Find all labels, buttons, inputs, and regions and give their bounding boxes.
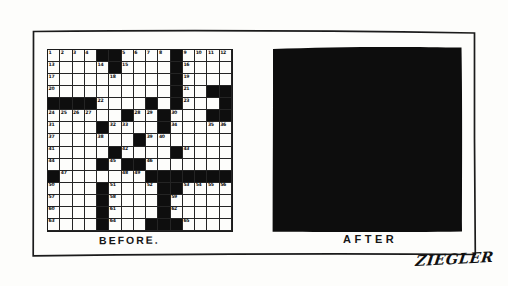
grid-cell: 8: [158, 50, 170, 62]
grid-cell: [146, 62, 158, 74]
grid-cell: [207, 98, 219, 110]
grid-cell: [220, 62, 232, 74]
grid-cell: [122, 195, 134, 207]
grid-cell: 26: [73, 110, 85, 122]
grid-cell: [183, 122, 195, 134]
grid-cell: [195, 207, 207, 219]
grid-cell: [122, 219, 134, 231]
grid-cell: [73, 62, 85, 74]
grid-cell: [195, 159, 207, 171]
grid-cell-black: [158, 171, 170, 183]
grid-cell: 59: [171, 195, 183, 207]
cell-number: 34: [171, 122, 177, 127]
cell-number: 61: [110, 206, 116, 211]
grid-cell: [134, 219, 146, 231]
grid-cell: [73, 122, 85, 134]
cell-number: 26: [73, 110, 79, 115]
cell-number: 19: [183, 74, 189, 79]
grid-cell: [195, 98, 207, 110]
grid-cell-black: [73, 98, 85, 110]
grid-cell-black: [158, 207, 170, 219]
grid-cell: [85, 122, 97, 134]
grid-cell: [220, 219, 232, 231]
after-black-square: [273, 47, 463, 232]
grid-cell: 11: [207, 50, 219, 62]
grid-cell: 2: [60, 50, 72, 62]
grid-cell-black: [207, 171, 219, 183]
grid-cell: [146, 147, 158, 159]
grid-cell: 16: [183, 62, 195, 74]
cell-number: 50: [49, 182, 55, 187]
grid-cell-black: [97, 207, 109, 219]
grid-cell-black: [195, 171, 207, 183]
cell-number: 16: [183, 62, 189, 67]
grid-cell: 24: [48, 110, 60, 122]
grid-cell: 28: [134, 110, 146, 122]
grid-cell: [73, 219, 85, 231]
grid-cell: [97, 110, 109, 122]
grid-cell: 20: [48, 86, 60, 98]
grid-cell: 40: [158, 134, 170, 146]
grid-cell: 5: [122, 50, 134, 62]
grid-cell: [73, 147, 85, 159]
grid-cell: [207, 159, 219, 171]
grid-cell: [207, 134, 219, 146]
grid-cell: [122, 98, 134, 110]
grid-cell-black: [85, 98, 97, 110]
grid-cell-black: [122, 110, 134, 122]
grid-cell: [220, 195, 232, 207]
grid-cell: 39: [146, 134, 158, 146]
grid-cell: 44: [48, 159, 60, 171]
grid-cell: [220, 207, 232, 219]
grid-cell-black: [146, 219, 158, 231]
grid-cell: [195, 86, 207, 98]
grid-cell: [183, 195, 195, 207]
grid-cell: 45: [109, 159, 121, 171]
before-label: BEFORE.: [99, 234, 160, 247]
grid-cell-black: [171, 62, 183, 74]
cell-number: 57: [49, 194, 55, 199]
cell-number: 7: [147, 50, 150, 55]
grid-cell: [146, 74, 158, 86]
grid-cell: [134, 62, 146, 74]
grid-cell: [195, 134, 207, 146]
grid-cell-black: [171, 86, 183, 98]
grid-cell: [122, 86, 134, 98]
grid-cell: 27: [85, 110, 97, 122]
cell-number: 32: [110, 122, 116, 127]
grid-cell: 32: [109, 122, 121, 134]
grid-cell: [195, 219, 207, 231]
grid-cell-black: [60, 98, 72, 110]
grid-cell: 52: [146, 183, 158, 195]
grid-cell: 18: [109, 74, 121, 86]
grid-cell: 63: [48, 219, 60, 231]
grid-cell: [195, 74, 207, 86]
grid-cell: [60, 74, 72, 86]
grid-cell: 47: [60, 171, 72, 183]
grid-cell: [134, 122, 146, 134]
grid-cell: 15: [122, 62, 134, 74]
cell-number: 39: [147, 134, 153, 139]
grid-cell: [85, 159, 97, 171]
grid-cell: [171, 159, 183, 171]
grid-cell: [220, 134, 232, 146]
grid-cell: 19: [183, 74, 195, 86]
grid-cell-black: [48, 98, 60, 110]
grid-cell: 9: [183, 50, 195, 62]
grid-cell: [122, 207, 134, 219]
cell-number: 1: [49, 50, 52, 55]
grid-cell: [97, 147, 109, 159]
grid-cell: [134, 207, 146, 219]
grid-cell-black: [97, 122, 109, 134]
grid-cell-black: [207, 86, 219, 98]
grid-cell: 43: [183, 147, 195, 159]
grid-cell-black: [158, 195, 170, 207]
grid-cell: [207, 74, 219, 86]
grid-cell: 35: [207, 122, 219, 134]
grid-cell: [73, 159, 85, 171]
grid-cell: [183, 134, 195, 146]
grid-cell: 29: [146, 110, 158, 122]
grid-cell: 13: [48, 62, 60, 74]
cell-number: 29: [147, 110, 153, 115]
grid-cell: 34: [171, 122, 183, 134]
